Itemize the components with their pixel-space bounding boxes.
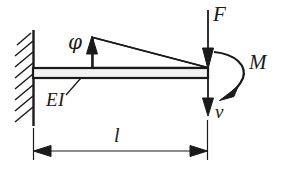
length-label: l bbox=[114, 125, 120, 145]
dim-arrowhead-left bbox=[34, 146, 52, 157]
moment-arc bbox=[214, 52, 244, 101]
flexural-rigidity-leader-line bbox=[66, 78, 81, 95]
cantilever-beam-figure: F M v φ EI l bbox=[0, 0, 285, 169]
deflection-label: v bbox=[215, 102, 223, 121]
rotation-angle-label: φ bbox=[68, 32, 82, 52]
force-arrow bbox=[203, 10, 214, 69]
length-dimension-line bbox=[34, 120, 208, 160]
moment-label: M bbox=[249, 52, 267, 73]
dim-arrowhead-right bbox=[190, 146, 208, 157]
deflection-arrow bbox=[203, 78, 214, 116]
beam-rectangle bbox=[33, 68, 208, 78]
moment-arc-curve bbox=[214, 52, 244, 94]
fixed-support-wall bbox=[15, 30, 34, 126]
wall-hatching bbox=[15, 33, 33, 122]
beam-body bbox=[33, 68, 208, 78]
deflected-shape-wedge bbox=[93, 38, 208, 68]
flexural-rigidity-label: EI bbox=[46, 90, 65, 109]
moment-arc-arrowhead bbox=[220, 87, 239, 101]
diagram-canvas bbox=[0, 0, 285, 169]
force-label: F bbox=[213, 4, 226, 25]
